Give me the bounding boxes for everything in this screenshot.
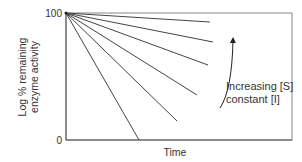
- plot-frame: [66, 13, 292, 140]
- y-axis-label-line2: enzyme activity: [28, 40, 40, 113]
- y-axis-label: Log % remaining enzyme activity: [16, 37, 40, 116]
- data-lines: [66, 13, 213, 140]
- x-axis-label: Time: [164, 146, 187, 158]
- series-line-5: [66, 13, 177, 121]
- annotation-line1: Increasing [S]: [226, 80, 293, 92]
- series-line-6: [66, 13, 139, 140]
- y-axis-label-line1: Log % remaining: [16, 37, 28, 116]
- y-tick-0: 0: [56, 135, 62, 146]
- annotation-line2: constant [I]: [226, 93, 280, 105]
- enzyme-inhibition-chart: 100 0 Time Log % remaining enzyme activi…: [0, 0, 302, 162]
- y-tick-100: 100: [45, 8, 62, 19]
- origin-point: [65, 12, 68, 15]
